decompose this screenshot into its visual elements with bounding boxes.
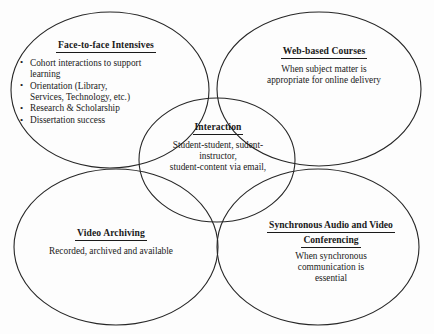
list-item: Orientation (Library, Services, Technolo… (20, 81, 192, 103)
node-interaction-title-wrap: Interaction (149, 116, 287, 135)
bullet-text-line1: Orientation (Library, (30, 81, 107, 91)
body-line: When synchronous (246, 251, 416, 262)
bullet-text-line2: learning (30, 69, 192, 80)
node-synchronous-conferencing: Synchronous Audio and Video Conferencing… (246, 218, 416, 285)
node-video-archiving-body: Recorded, archived and available (24, 246, 198, 257)
node-synchronous-title-block: Synchronous Audio and Video Conferencing (246, 218, 416, 248)
node-interaction-body: Student-student, sudent- instructor, stu… (149, 140, 287, 174)
node-synchronous-title-line2: Conferencing (301, 233, 360, 248)
bullet-text-line1: Research & Scholarship (30, 103, 120, 113)
node-interaction-title: Interaction (193, 122, 244, 135)
venn-diagram-canvas: Face-to-face Intensives Cohort interacti… (0, 0, 434, 334)
node-video-archiving-title-wrap: Video Archiving (24, 222, 198, 241)
bullet-text-line2: Services, Technology, etc.) (30, 92, 192, 103)
list-item: Cohort interactions to support learning (20, 58, 192, 80)
node-video-archiving-title: Video Archiving (75, 228, 147, 241)
body-line: When subject matter is (238, 64, 410, 75)
bullet-text-line1: Dissertation success (30, 115, 105, 125)
body-line: appropriate for online delivery (238, 75, 410, 86)
node-face-to-face-intensives: Face-to-face Intensives Cohort interacti… (20, 34, 192, 127)
node-face-to-face-title-wrap: Face-to-face Intensives (20, 34, 192, 53)
node-interaction: Interaction Student-student, sudent- ins… (149, 116, 287, 174)
list-item: Research & Scholarship (20, 103, 192, 114)
node-synchronous-title-line: Synchronous Audio and Video (246, 218, 416, 233)
node-web-based-body: When subject matter is appropriate for o… (238, 64, 410, 87)
node-synchronous-title-line: Conferencing (246, 233, 416, 248)
body-line: essential (246, 273, 416, 284)
body-line: instructor, (149, 151, 287, 162)
node-web-based-title-wrap: Web-based Courses (238, 40, 410, 59)
body-line: student-content via email, (149, 162, 287, 173)
body-line: Student-student, sudent- (149, 140, 287, 151)
node-face-to-face-title: Face-to-face Intensives (56, 40, 156, 53)
node-synchronous-title-line1: Synchronous Audio and Video (267, 218, 395, 233)
node-web-based-courses: Web-based Courses When subject matter is… (238, 40, 410, 86)
node-web-based-title: Web-based Courses (281, 46, 367, 59)
node-video-archiving: Video Archiving Recorded, archived and a… (24, 222, 198, 257)
bullet-text-line1: Cohort interactions to support (30, 58, 141, 68)
body-line: communication is (246, 262, 416, 273)
body-line: Recorded, archived and available (24, 246, 198, 257)
node-synchronous-body: When synchronous communication is essent… (246, 251, 416, 285)
